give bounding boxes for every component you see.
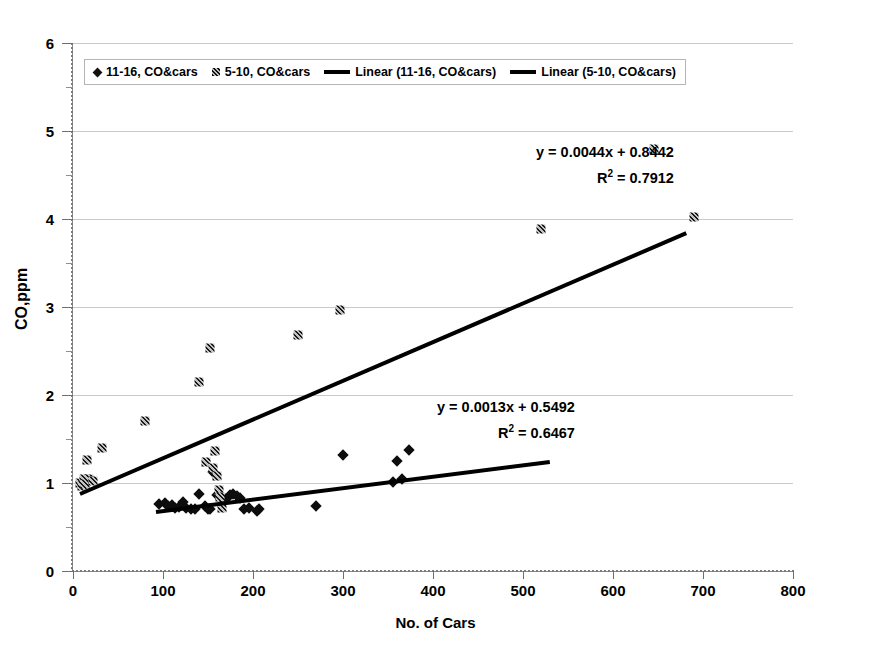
legend-label: Linear (5-10, CO&cars): [541, 65, 676, 79]
r-squared-text: R2 = 0.6467: [437, 418, 575, 444]
x-axis-tick: [343, 571, 344, 579]
gridline: [73, 307, 793, 308]
gridline: [73, 43, 793, 44]
gridline: [73, 131, 793, 132]
x-axis-tick: [73, 571, 74, 579]
y-axis-minor-tick: [66, 527, 73, 528]
y-axis-tick: [62, 43, 73, 44]
trendline-equation-0: y = 0.0044x + 0.8442R2 = 0.7912: [536, 142, 674, 189]
data-point-square: [690, 213, 699, 222]
legend-item-0[interactable]: 11-16, CO&cars: [94, 65, 198, 79]
equation-text: y = 0.0013x + 0.5492: [437, 397, 575, 418]
x-axis-tick: [703, 571, 704, 579]
x-axis-tick-label: 700: [690, 582, 715, 599]
data-point-square: [537, 224, 546, 233]
scatter-chart: 0123456 0100200300400500600700800 CO,ppm…: [0, 0, 871, 661]
y-axis-tick-label: 1: [28, 475, 54, 492]
legend-item-1[interactable]: 5-10, CO&cars: [212, 65, 310, 79]
gridline: [73, 395, 793, 396]
y-axis-tick-label: 2: [28, 387, 54, 404]
gridline: [73, 219, 793, 220]
legend-label: 5-10, CO&cars: [225, 65, 310, 79]
data-point-square: [82, 456, 91, 465]
x-axis-tick-label: 0: [69, 582, 77, 599]
data-point-square: [294, 331, 303, 340]
data-point-square: [336, 305, 345, 314]
x-axis-tick: [433, 571, 434, 579]
x-axis-tick-label: 100: [150, 582, 175, 599]
legend-label: Linear (11-16, CO&cars): [355, 65, 496, 79]
legend-diamond-icon: [93, 67, 103, 77]
data-point-square: [97, 443, 106, 452]
y-axis-title: CO,ppm: [13, 229, 31, 369]
y-axis-minor-tick: [66, 175, 73, 176]
legend-line-icon: [324, 70, 350, 74]
x-axis-tick-label: 200: [240, 582, 265, 599]
legend-item-3[interactable]: Linear (5-10, CO&cars): [510, 65, 676, 79]
plot-area: [73, 43, 793, 571]
data-point-square: [215, 493, 224, 502]
trendline-equation-1: y = 0.0013x + 0.5492R2 = 0.6467: [437, 397, 575, 444]
x-axis-tick: [613, 571, 614, 579]
y-axis-tick: [62, 483, 73, 484]
data-point-square: [205, 344, 214, 353]
x-axis-tick-label: 300: [330, 582, 355, 599]
x-axis-tick-label: 800: [780, 582, 805, 599]
y-axis-tick: [62, 131, 73, 132]
x-axis-tick: [793, 571, 794, 579]
x-axis-tick: [163, 571, 164, 579]
legend-line-icon: [510, 70, 536, 74]
equation-text: y = 0.0044x + 0.8442: [536, 142, 674, 163]
data-point-square: [213, 471, 222, 480]
x-axis-tick-label: 400: [420, 582, 445, 599]
y-axis-tick-label: 6: [28, 35, 54, 52]
y-axis-minor-tick: [66, 263, 73, 264]
legend-square-icon: [212, 68, 220, 76]
legend-label: 11-16, CO&cars: [106, 65, 198, 79]
y-axis-minor-tick: [66, 351, 73, 352]
y-axis-tick: [62, 395, 73, 396]
y-axis-tick-label: 4: [28, 211, 54, 228]
r-squared-text: R2 = 0.7912: [536, 163, 674, 189]
y-axis-tick: [62, 307, 73, 308]
x-axis-title: No. of Cars: [0, 614, 871, 631]
x-axis-tick-label: 500: [510, 582, 535, 599]
y-axis-tick: [62, 219, 73, 220]
y-axis-minor-tick: [66, 87, 73, 88]
x-axis-tick: [523, 571, 524, 579]
legend-item-2[interactable]: Linear (11-16, CO&cars): [324, 65, 496, 79]
x-axis-tick-label: 600: [600, 582, 625, 599]
data-point-square: [211, 447, 220, 456]
y-axis-tick: [62, 571, 73, 572]
x-axis-tick: [253, 571, 254, 579]
y-axis-tick-label: 0: [28, 563, 54, 580]
chart-legend[interactable]: 11-16, CO&cars5-10, CO&carsLinear (11-16…: [84, 59, 686, 85]
y-axis-minor-tick: [66, 439, 73, 440]
data-point-square: [195, 377, 204, 386]
data-point-square: [141, 416, 150, 425]
y-axis-tick-label: 5: [28, 123, 54, 140]
y-axis-tick-label: 3: [28, 299, 54, 316]
gridline: [73, 483, 793, 484]
